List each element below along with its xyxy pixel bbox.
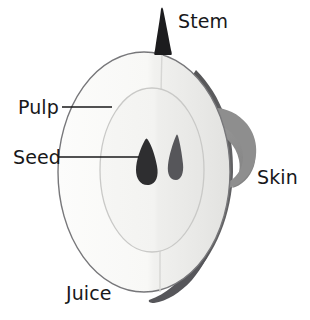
apple-anatomy-diagram: Stem Pulp Seed Skin Juice xyxy=(0,0,310,320)
label-skin: Skin xyxy=(257,168,298,187)
stem-shape xyxy=(154,8,172,56)
label-juice: Juice xyxy=(66,284,112,303)
label-stem: Stem xyxy=(178,12,228,31)
label-pulp: Pulp xyxy=(18,98,59,117)
label-seed: Seed xyxy=(13,148,61,167)
